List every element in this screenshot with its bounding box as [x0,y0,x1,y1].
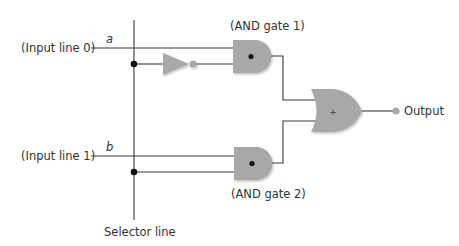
not-gate [163,53,197,75]
variable-a-label: a [106,32,113,46]
output-label: Output [404,104,444,118]
variable-b-label: b [106,140,113,154]
multiplexer-diagram: (Input line 0) a (Input line 1) b Select… [0,0,459,246]
and-gate-1-dot-icon [248,54,253,59]
output-bubble-icon [392,107,399,114]
input-line-0-label: (Input line 0) [21,41,95,55]
and1-to-or-wire [271,56,318,100]
input-line-1-label: (Input line 1) [21,149,95,163]
and2-to-or-wire [272,121,318,163]
or-gate-plus-icon: + [329,107,337,117]
junction-dot-top [131,61,138,68]
and-gate-1-label: (AND gate 1) [230,19,305,33]
junction-dot-bottom [131,169,138,176]
selector-line-label: Selector line [104,225,176,239]
and-gate-2-dot-icon [249,161,254,166]
and-gate-2-label: (AND gate 2) [231,187,306,201]
